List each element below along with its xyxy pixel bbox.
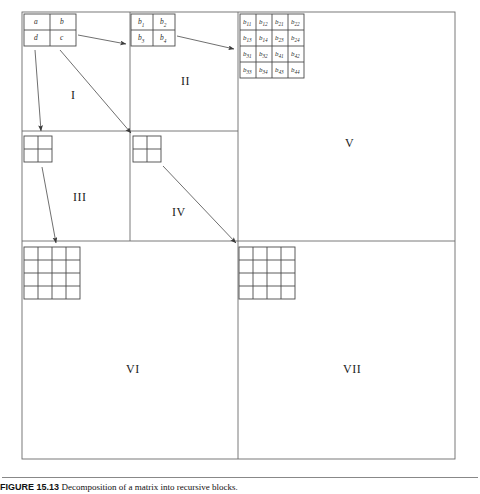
- matrix-cell-b1: b1: [138, 17, 144, 28]
- outer-frame: [22, 12, 455, 459]
- sym-sub: 11: [247, 21, 252, 27]
- sym-sub: 33: [247, 69, 252, 75]
- sym-sub: 3: [142, 38, 145, 44]
- region-label-vii: VII: [343, 362, 361, 377]
- matrix-cell-b13: b13: [243, 34, 252, 43]
- figure-caption: FIGURE 15.13 Decomposition of a matrix i…: [0, 482, 480, 494]
- matrix-cell-d: d: [34, 33, 38, 42]
- matrix-cell-b32: b32: [259, 50, 268, 59]
- matrix-cell-b44: b44: [291, 66, 300, 75]
- matrix-cell-b11: b11: [243, 18, 251, 27]
- arrow-abdc-to-b1b4: [78, 35, 126, 44]
- sym-sub: 1: [142, 22, 145, 28]
- matrix-cell-b4: b4: [160, 33, 166, 44]
- sym-sub: 24: [295, 37, 300, 43]
- empty-4x4-grid-vii: [239, 247, 295, 299]
- matrix-cell-b22: b22: [291, 18, 300, 27]
- region-label-v: V: [345, 136, 354, 151]
- empty-2x2-grid-iii: [24, 136, 52, 162]
- matrix-cell-b12: b12: [259, 18, 268, 27]
- matrix-cell-b34: b34: [259, 66, 268, 75]
- matrix-cell-b2: b2: [160, 17, 166, 28]
- caption-body: Decomposition of a matrix into recursive…: [62, 482, 238, 492]
- matrix-abdc-grid: [24, 14, 76, 46]
- sym-sub: 43: [279, 69, 284, 75]
- region-label-vi: VI: [126, 362, 140, 377]
- arrow-b1b4-to-bij: [177, 36, 234, 49]
- sym-sub: 34: [263, 69, 268, 75]
- region-label-i: I: [71, 88, 76, 103]
- caption-rule: [2, 477, 478, 478]
- matrix-cell-c: c: [60, 33, 63, 42]
- matrix-cell-b33: b33: [243, 66, 252, 75]
- matrix-cell-b43: b43: [275, 66, 284, 75]
- matrix-cell-b31: b31: [243, 50, 252, 59]
- matrix-cell-b42: b42: [291, 50, 300, 59]
- region-label-iii: III: [73, 190, 87, 205]
- matrix-cell-b41: b41: [275, 50, 284, 59]
- region-label-iv: IV: [172, 205, 186, 220]
- arrow-abdc-down-i: [35, 50, 41, 131]
- sym-sub: 23: [279, 37, 284, 43]
- sym-sub: 12: [263, 21, 268, 27]
- arrow-iii-down-vi: [42, 167, 56, 243]
- sym-sub: 31: [247, 53, 252, 59]
- empty-4x4-grid-vi: [24, 247, 80, 299]
- figure-container: a b d c b1 b2 b3 b4 b11 b12 b21 b22 b13 …: [0, 0, 480, 494]
- matrix-cell-b21: b21: [275, 18, 284, 27]
- sym-sub: 22: [295, 21, 300, 27]
- figure-vector-layer: [0, 0, 480, 494]
- matrix-cell-b24: b24: [291, 34, 300, 43]
- sym-sub: 42: [295, 53, 300, 59]
- sym-sub: 2: [164, 22, 167, 28]
- caption-figure-number: FIGURE 15.13: [0, 482, 59, 492]
- sym-sub: 13: [247, 37, 252, 43]
- sym-sub: 21: [279, 21, 284, 27]
- matrix-cell-b3: b3: [138, 33, 144, 44]
- matrix-cell-b14: b14: [259, 34, 268, 43]
- sym-sub: 41: [279, 53, 284, 59]
- empty-2x2-grid-iv: [133, 136, 161, 162]
- matrix-cell-a: a: [34, 17, 38, 26]
- sym-sub: 44: [295, 69, 300, 75]
- matrix-cell-b: b: [60, 17, 64, 26]
- sym-sub: 32: [263, 53, 268, 59]
- sym-sub: 4: [164, 38, 167, 44]
- region-label-ii: II: [181, 74, 190, 89]
- sym-sub: 14: [263, 37, 268, 43]
- matrix-cell-b23: b23: [275, 34, 284, 43]
